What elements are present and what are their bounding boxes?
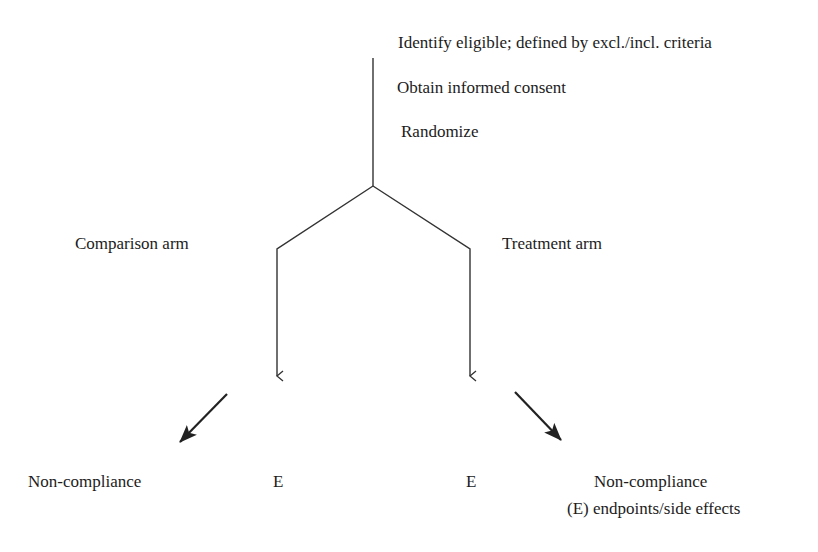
comparison-branch-line	[277, 186, 373, 376]
comparison-noncompliance-arrow	[180, 394, 227, 442]
treatment-branch-line	[373, 186, 470, 376]
comparison-arm-label: Comparison arm	[75, 234, 189, 254]
comparison-noncompliance-label: Non-compliance	[28, 472, 141, 492]
treatment-noncompliance-label: Non-compliance	[594, 472, 707, 492]
treatment-noncompliance-arrow	[515, 392, 561, 440]
step-identify-label: Identify eligible; defined by excl./incl…	[398, 33, 712, 53]
step-consent-label: Obtain informed consent	[397, 78, 566, 98]
comparison-endpoint-label: E	[273, 472, 283, 492]
treatment-endpoint-label: E	[466, 472, 476, 492]
treatment-arm-label: Treatment arm	[502, 234, 602, 254]
step-randomize-label: Randomize	[401, 122, 478, 142]
trial-flow-diagram: Identify eligible; defined by excl./incl…	[0, 0, 818, 552]
endpoints-legend-note: (E) endpoints/side effects	[567, 499, 740, 519]
